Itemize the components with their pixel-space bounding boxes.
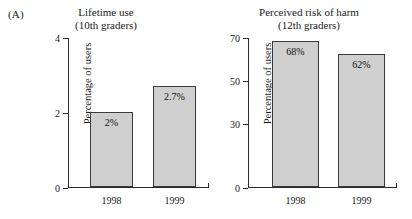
chart-title-line1: Lifetime use	[0, 6, 212, 19]
x-tick-label-lifetime-1999: 1999	[153, 195, 196, 206]
chart-perceived-risk: Perceived risk of harm (12th graders) Pe…	[206, 0, 412, 219]
y-tick-label-0-left: 0	[55, 183, 60, 194]
bar-lifetime-1999[interactable]: 2.7%	[153, 86, 196, 187]
plot-area-perceived-risk: Percentage of users 0 30 50 70 68% 62%	[248, 38, 396, 188]
y-tick-label-30-right: 30	[230, 118, 240, 129]
y-tick-label-0-right: 0	[235, 183, 240, 194]
chart-lifetime-use: Lifetime use (10th graders) Percentage o…	[0, 0, 212, 219]
bar-risk-1998[interactable]: 68%	[272, 41, 319, 187]
chart-title-line2-right: (12th graders)	[206, 19, 412, 32]
bar-value-lifetime-1999: 2.7%	[154, 91, 195, 102]
x-tick-label-lifetime-1998: 1998	[90, 195, 133, 206]
x-cat-slot-risk-1999: 1999	[338, 187, 385, 188]
y-axis-line-left	[68, 38, 69, 188]
x-tick-label-risk-1998: 1998	[272, 195, 319, 206]
x-cat-slot-risk-1998: 1998	[272, 187, 319, 188]
bar-value-risk-1999: 62%	[339, 59, 384, 70]
bar-value-lifetime-1998: 2%	[91, 117, 132, 128]
bar-lifetime-1998[interactable]: 2%	[90, 112, 133, 187]
plot-area-lifetime-use: Percentage of users 0 2 4 2% 2.7% 1998	[68, 38, 208, 188]
x-axis-endcap-right	[396, 183, 397, 188]
y-tick-label-50-right: 50	[230, 75, 240, 86]
x-tick-label-risk-1999: 1999	[338, 195, 385, 206]
y-tick-label-4-left: 4	[55, 33, 60, 44]
chart-title-perceived-risk: Perceived risk of harm (12th graders)	[206, 6, 412, 32]
chart-title-line2: (10th graders)	[0, 19, 212, 32]
chart-title-line1-right: Perceived risk of harm	[206, 6, 412, 19]
y-axis-label-perceived-risk: Percentage of users	[262, 29, 273, 139]
x-cat-slot-lifetime-1998: 1998	[90, 187, 133, 188]
x-cat-slot-lifetime-1999: 1999	[153, 187, 196, 188]
y-tick-label-2-left: 2	[55, 108, 60, 119]
chart-title-lifetime-use: Lifetime use (10th graders)	[0, 6, 212, 32]
y-axis-line-right	[248, 38, 249, 188]
y-tick-label-70-right: 70	[230, 33, 240, 44]
bar-value-risk-1998: 68%	[273, 46, 318, 57]
bar-risk-1999[interactable]: 62%	[338, 54, 385, 187]
